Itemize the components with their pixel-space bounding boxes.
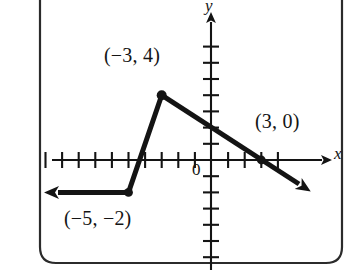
function-graph — [58, 90, 299, 197]
figure-page: (−3, 4) (−5, −2) (3, 0) y x 0 — [0, 0, 359, 279]
point-minus5-minus2 — [124, 188, 133, 197]
label-x-intercept: (3, 0) — [255, 110, 300, 133]
point-minus3-4 — [157, 90, 167, 100]
label-vertex-corner: (−5, −2) — [64, 207, 131, 230]
y-axis-label: y — [205, 0, 213, 16]
label-vertex-max: (−3, 4) — [104, 44, 160, 67]
point-3-0 — [257, 156, 266, 165]
y-axis — [203, 22, 219, 270]
x-axis — [46, 152, 323, 168]
coordinate-graph — [0, 0, 359, 279]
origin-label: 0 — [192, 160, 201, 180]
x-axis-label: x — [334, 144, 342, 164]
